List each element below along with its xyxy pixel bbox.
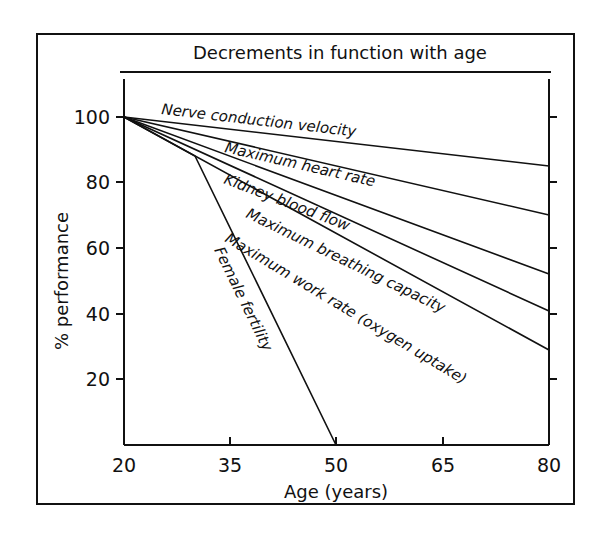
y-tick-label-40: 40 xyxy=(86,303,110,325)
x-axis-title: Age (years) xyxy=(284,481,388,502)
chart-title: Decrements in function with age xyxy=(193,42,487,63)
x-tick-label-80: 80 xyxy=(537,454,561,476)
y-tick-label-100: 100 xyxy=(74,106,110,128)
y-tick-label-20: 20 xyxy=(86,368,110,390)
y-axis-title: % performance xyxy=(51,212,72,350)
decrements-in-function-with-age-chart: Decrements in function with age 100 80 6… xyxy=(38,35,573,503)
y-axis-ticks xyxy=(116,117,124,379)
x-tick-label-35: 35 xyxy=(218,454,242,476)
series-label-nerve-conduction-velocity: Nerve conduction velocity xyxy=(161,100,359,141)
y-tick-label-60: 60 xyxy=(86,237,110,259)
figure-border: Decrements in function with age 100 80 6… xyxy=(36,33,575,505)
x-tick-label-65: 65 xyxy=(431,454,455,476)
right-axis-ticks xyxy=(549,117,557,379)
x-tick-label-50: 50 xyxy=(324,454,348,476)
y-tick-label-80: 80 xyxy=(86,171,110,193)
x-tick-label-20: 20 xyxy=(112,454,136,476)
x-axis-ticks xyxy=(124,437,549,445)
